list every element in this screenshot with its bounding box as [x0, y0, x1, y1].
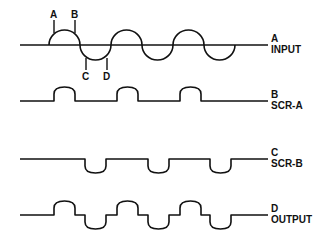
marker-a-label: A — [50, 9, 57, 20]
scr-a-letter: B — [271, 89, 278, 100]
scr-a-name: SCR-A — [271, 100, 303, 111]
marker-c-label: C — [82, 71, 89, 82]
scr-waveform-diagram: A B C D A INPUT B SCR-A C SCR-B D OUTPUT — [0, 0, 325, 245]
marker-d-label: D — [103, 71, 110, 82]
scr-b-name: SCR-B — [271, 158, 303, 169]
scr-a-waveform — [20, 87, 268, 101]
marker-b-label: B — [71, 9, 78, 20]
output-waveform — [20, 201, 268, 229]
trace-scr-a: B SCR-A — [20, 87, 303, 111]
trace-input: A B C D A INPUT — [20, 9, 301, 82]
scr-b-letter: C — [271, 147, 278, 158]
input-name: INPUT — [271, 44, 301, 55]
trace-output: D OUTPUT — [20, 201, 312, 229]
trace-scr-b: C SCR-B — [20, 147, 303, 173]
output-name: OUTPUT — [271, 214, 312, 225]
scr-b-waveform — [20, 159, 268, 173]
input-letter: A — [271, 33, 278, 44]
output-letter: D — [271, 203, 278, 214]
